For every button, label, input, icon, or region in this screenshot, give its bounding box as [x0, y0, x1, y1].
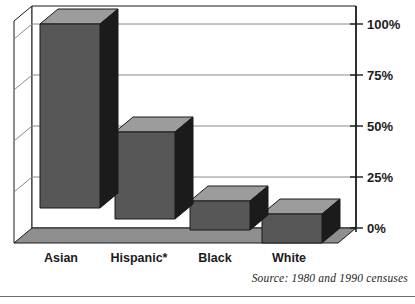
chart-canvas: 100% 75% 50% 25% 0% Asian Hispanic* Blac… [0, 0, 415, 304]
category-axis-labels: Asian Hispanic* Black White [44, 251, 306, 265]
category-label-black: Black [198, 251, 231, 265]
axis-label-100: 100% [367, 17, 401, 32]
bar-asian-side [100, 9, 118, 208]
category-label-hispanic: Hispanic* [111, 251, 168, 265]
bar-hispanic-front [115, 132, 175, 219]
bar-white-front [262, 214, 322, 243]
axis-label-0: 0% [367, 221, 386, 236]
bar-hispanic-side [175, 117, 193, 219]
axis-label-50: 50% [367, 119, 393, 134]
bar-asian-front [40, 24, 100, 208]
bar-white[interactable] [262, 199, 340, 243]
bar-black[interactable] [190, 186, 268, 230]
plot-left-wall [14, 6, 32, 243]
bar-hispanic[interactable] [115, 117, 193, 219]
bar-black-front [190, 201, 250, 230]
category-label-asian: Asian [44, 251, 78, 265]
axis-label-25: 25% [367, 170, 393, 185]
bottom-divider [0, 296, 415, 297]
source-note: Source: 1980 and 1990 censuses [252, 272, 408, 284]
bar-chart-figure: 100% 75% 50% 25% 0% Asian Hispanic* Blac… [0, 0, 415, 304]
bar-asian[interactable] [40, 9, 118, 208]
value-axis-labels: 100% 75% 50% 25% 0% [367, 17, 401, 236]
axis-label-75: 75% [367, 68, 393, 83]
category-label-white: White [272, 251, 306, 265]
